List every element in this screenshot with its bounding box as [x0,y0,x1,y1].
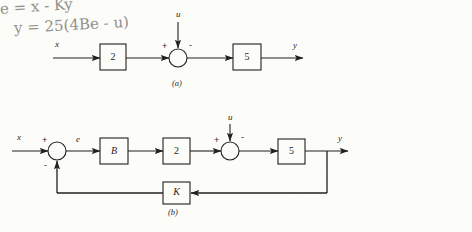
block-diagram-canvas [0,0,472,232]
figure-page: x u y 2 5 + - (a) x e u y B 2 5 K + - + … [0,0,472,232]
fig-a-gain-5-text: 5 [233,52,261,62]
fig-b-error-label: e [76,135,80,144]
fig-b-sum2-plus-sign: + [214,136,219,145]
fig-a-sum-minus-sign: - [189,41,192,50]
fig-b-input-label: x [17,133,21,142]
fig-b-disturbance-label: u [228,113,233,122]
fig-b-output-label: y [338,134,342,143]
fig-a-caption: (a) [172,79,182,88]
fig-b-sum1-minus-sign: - [44,161,47,170]
fig-b-block-b-text: B [100,146,128,156]
fig-a-sum-plus-sign: + [162,42,167,51]
fig-b-gain-5-text: 5 [278,146,305,156]
fig-a-output-label: y [293,41,297,50]
fig-a-summing-junction [169,49,187,67]
fig-b-sum1-plus-sign: + [42,136,47,145]
fig-a-input-label: x [55,40,59,49]
fig-b-feedback-k-text: K [163,187,190,197]
fig-a-gain-2-text: 2 [100,52,126,62]
fig-b-caption: (b) [168,208,178,217]
fig-b-summing-junction-1 [48,142,66,160]
fig-b-gain-2-text: 2 [163,146,190,156]
fig-a-disturbance-label: u [176,10,181,19]
fig-b-summing-junction-2 [221,142,239,160]
fig-b-sum2-minus-sign: - [241,133,244,142]
